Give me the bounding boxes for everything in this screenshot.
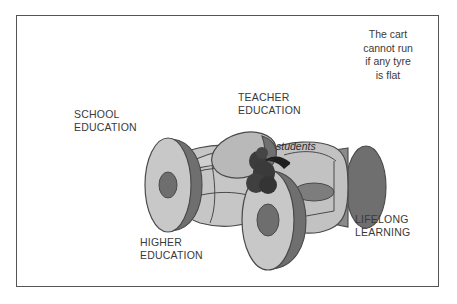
- wheel-school-higher-education: [145, 138, 202, 232]
- label-teacher-education: TEACHER EDUCATION: [238, 91, 301, 117]
- label-lifelong-learning: LIFELONG LEARNING: [355, 213, 410, 239]
- label-school-education: SCHOOL EDUCATION: [74, 108, 137, 134]
- wheel-hub: [159, 172, 177, 198]
- wheel-hub: [257, 204, 279, 236]
- student-blob: [259, 176, 277, 194]
- figure-canvas: SCHOOL EDUCATION TEACHER EDUCATION HIGHE…: [0, 0, 457, 304]
- label-students: students: [276, 140, 316, 152]
- figure-caption: The cart cannot run if any tyre is flat: [348, 28, 428, 82]
- student-blob: [256, 147, 268, 159]
- label-higher-education: HIGHER EDUCATION: [140, 236, 203, 262]
